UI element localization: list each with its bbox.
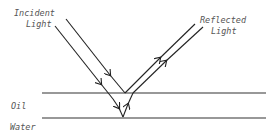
reflected-ray-surface [125,24,195,93]
reflected-label-line2: Light [211,26,237,36]
incident-ray-outer [55,26,123,117]
incident-label-line1: Incident [14,8,55,18]
incident-ray-inner [66,19,125,93]
reflected-label-line1: Reflected [200,15,247,25]
incident-label-line2: Light [26,19,52,29]
water-label: Water [10,122,36,132]
reflected-ray-interface [123,27,203,117]
oil-label: Oil [11,101,26,111]
thin-film-reflection-diagram: Incident Light Reflected Light Oil Water [0,0,278,135]
